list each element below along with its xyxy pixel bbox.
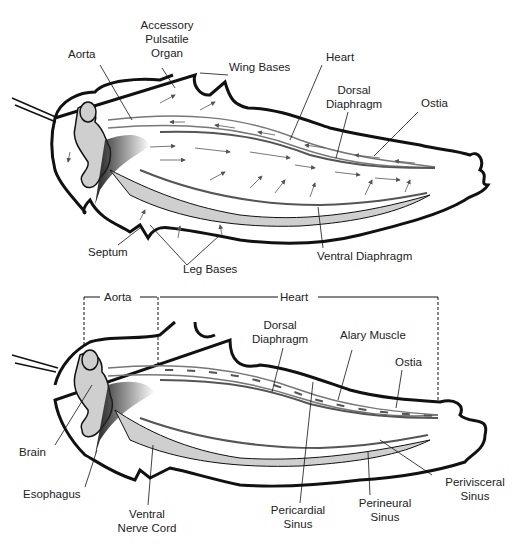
label-perineural-sinus: Perineural Sinus — [355, 496, 415, 524]
label-line: Diaphragm — [248, 332, 312, 346]
label-line: Pericardial — [266, 503, 330, 517]
label-line: Organ — [136, 46, 198, 60]
label-wing-bases: Wing Bases — [229, 60, 290, 74]
label-ostia-top: Ostia — [421, 96, 448, 110]
label-brain: Brain — [19, 445, 46, 459]
label-line: Perivisceral — [440, 475, 510, 489]
label-aorta-top: Aorta — [68, 47, 96, 61]
top-insect-body — [12, 65, 488, 265]
label-line: Perineural — [355, 496, 415, 510]
label-ostia-bottom: Ostia — [395, 355, 422, 369]
label-line: Sinus — [440, 489, 510, 503]
label-dorsal-diaphragm-bottom: Dorsal Diaphragm — [248, 318, 312, 346]
label-septum: Septum — [88, 245, 128, 259]
label-leg-bases: Leg Bases — [183, 262, 237, 276]
label-line: Accessory — [136, 18, 198, 32]
label-esophagus: Esophagus — [23, 487, 81, 501]
insect-circulation-diagram — [0, 0, 525, 557]
label-line: Pulsatile — [136, 32, 198, 46]
label-ventral-diaphragm: Ventral Diaphragm — [317, 249, 412, 263]
label-perivisceral-sinus: Perivisceral Sinus — [440, 475, 510, 503]
label-line: Nerve Cord — [112, 521, 182, 535]
label-dorsal-diaphragm-top: Dorsal Diaphragm — [322, 83, 386, 111]
label-pericardial-sinus: Pericardial Sinus — [266, 503, 330, 531]
label-line: Diaphragm — [322, 97, 386, 111]
label-line: Ventral — [112, 507, 182, 521]
label-heart-bottom: Heart — [280, 290, 308, 304]
label-line: Sinus — [266, 517, 330, 531]
label-line: Sinus — [355, 510, 415, 524]
label-heart-top: Heart — [326, 50, 354, 64]
label-line: Dorsal — [248, 318, 312, 332]
label-ventral-nerve-cord: Ventral Nerve Cord — [112, 507, 182, 535]
label-accessory-pulsatile-organ: Accessory Pulsatile Organ — [136, 18, 198, 60]
label-alary-muscle: Alary Muscle — [340, 328, 406, 342]
label-line: Dorsal — [322, 83, 386, 97]
label-aorta-bottom: Aorta — [104, 290, 132, 304]
